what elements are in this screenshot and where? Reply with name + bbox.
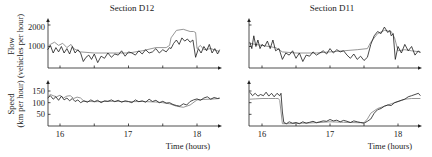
speed-tick-150: 150 (32, 86, 45, 96)
bottom-left-series (48, 95, 220, 108)
x-arrow-icon (218, 66, 222, 70)
y-arrow-icon (46, 80, 50, 84)
top-left-series (48, 29, 220, 62)
bottom-left-measured-line (48, 96, 220, 107)
top-right-series (250, 27, 421, 61)
plot-lines (48, 27, 421, 124)
top-left-measured-line (48, 38, 220, 63)
xlabel-left: Time (hours) (166, 141, 210, 151)
xtick-16-left: 16 (56, 129, 65, 139)
xtick-17-right: 17 (326, 129, 335, 139)
xtick-17-left: 17 (124, 129, 133, 139)
title-section-d12: Section D12 (110, 3, 155, 13)
xtick-18-right: 18 (394, 129, 403, 139)
y-arrow-icon (247, 18, 251, 22)
x-arrow-icon (418, 66, 422, 70)
x-arrow-icon (218, 124, 222, 128)
speed-ylabel-line2: (km per hour) (15, 80, 25, 127)
xtick-18-left: 18 (193, 129, 202, 139)
figure: Section D12 Section D11 Flow (vehicles p… (0, 0, 432, 157)
bottom-right-series (250, 92, 421, 124)
bottom-left-axes (46, 80, 222, 128)
y-arrow-icon (247, 80, 251, 84)
title-section-d11: Section D11 (310, 3, 354, 13)
flow-ylabel-line2: (vehicles per hour) (15, 14, 25, 78)
speed-tick-100: 100 (32, 98, 45, 108)
top-left-axes (46, 18, 222, 70)
axes (46, 18, 422, 128)
flow-ylabel: Flow (vehicles per hour) (6, 14, 25, 78)
flow-tick-2000: 2000 (28, 22, 45, 32)
speed-ylabel: Speed (km per hour) (6, 80, 25, 127)
flow-tick-1000: 1000 (28, 41, 45, 51)
y-arrow-icon (46, 18, 50, 22)
speed-tick-50: 50 (37, 109, 46, 119)
xtick-16-right: 16 (258, 129, 267, 139)
bottom-right-measured-line (250, 92, 421, 124)
x-arrow-icon (418, 124, 422, 128)
top-right-measured-line (250, 27, 421, 61)
xlabel-right: Time (hours) (368, 141, 412, 151)
